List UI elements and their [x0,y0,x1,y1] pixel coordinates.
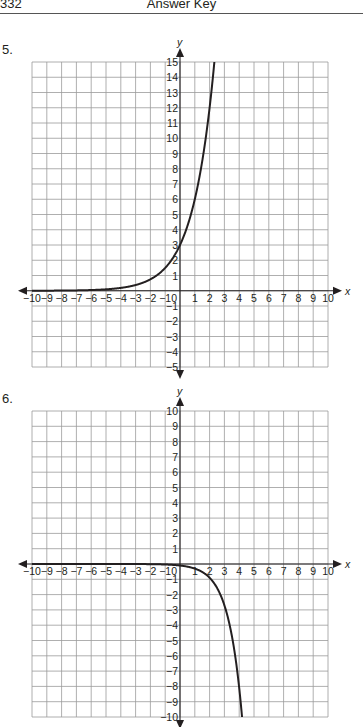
y-tick-label: 2 [172,527,178,539]
y-tick-label: 14 [166,71,178,83]
y-tick-label: −2 [166,315,178,327]
y-tick-label: 9 [172,148,178,160]
x-tick-label: −3 [130,565,142,577]
x-tick-label: 8 [295,292,301,304]
x-axis-label: x [344,285,351,297]
y-tick-label: −3 [166,604,178,616]
y-axis-label: y [176,36,183,48]
y-tick-label: 1 [172,543,178,555]
y-tick-label: 12 [166,102,178,114]
x-tick-label: −4 [115,565,127,577]
x-tick-label: −4 [115,292,127,304]
x-tick-label: 4 [236,292,242,304]
x-tick-label: 3 [221,565,227,577]
y-tick-label: −7 [166,665,178,677]
x-tick-label: −6 [85,565,97,577]
x-tick-label: −7 [70,565,82,577]
y-tick-label: 5 [172,209,178,221]
y-tick-label: 7 [172,178,178,190]
x-axis-right-arrow-icon [333,560,342,568]
x-tick-label: 6 [266,565,272,577]
y-tick-label: 10 [166,132,178,144]
y-tick-label: 6 [172,466,178,478]
x-tick-label: −10 [23,565,41,577]
x-tick-label: 1 [192,565,198,577]
x-axis-label: x [344,558,351,570]
y-tick-label: −9 [166,696,178,708]
y-tick-label: −6 [166,650,178,662]
x-tick-label: −3 [130,292,142,304]
x-tick-label: 5 [251,565,257,577]
x-tick-label: 6 [266,292,272,304]
y-tick-label: 1 [172,270,178,282]
x-tick-label: −8 [56,292,68,304]
x-tick-label: −8 [56,565,68,577]
exponential-curve [32,62,214,291]
y-tick-label: −1 [166,573,178,585]
y-tick-label: 4 [172,497,178,509]
y-tick-label: 8 [172,436,178,448]
y-tick-label: −4 [166,619,178,631]
x-axis-right-arrow-icon [333,287,342,295]
y-tick-label: −2 [166,589,178,601]
x-tick-label: −10 [23,292,41,304]
x-tick-label: −7 [70,292,82,304]
y-tick-label: −4 [166,346,178,358]
y-tick-label: 7 [172,451,178,463]
x-tick-label: 1 [192,292,198,304]
x-tick-label: 7 [281,292,287,304]
x-tick-label: −9 [41,565,53,577]
y-tick-label: 6 [172,193,178,205]
x-tick-label: 10 [322,565,334,577]
x-tick-label: 7 [281,565,287,577]
y-axis-label: y [176,385,183,397]
y-tick-label: −5 [166,361,178,373]
x-tick-label: −9 [41,292,53,304]
axes [22,52,338,375]
x-tick-label: 10 [322,292,334,304]
y-tick-label: 10 [166,405,178,417]
y-tick-label: 8 [172,163,178,175]
x-tick-label: 2 [207,292,213,304]
x-tick-label: −6 [85,292,97,304]
y-tick-label: 9 [172,420,178,432]
y-tick-label: 15 [166,56,178,68]
y-tick-label: −5 [166,635,178,647]
x-tick-label: 4 [236,565,242,577]
y-tick-label: 13 [166,87,178,99]
y-tick-label: −8 [166,680,178,692]
graph-6: xy−10−9−8−7−6−5−4−3−2−1012345678910−10−9… [18,385,351,727]
x-tick-label: −5 [100,292,112,304]
x-tick-label: −2 [144,565,156,577]
x-tick-label: 5 [251,292,257,304]
graph-5: xy−10−9−8−7−6−5−4−3−2−1012345678910−5−4−… [18,36,351,379]
x-tick-label: 9 [310,565,316,577]
y-tick-label: −3 [166,331,178,343]
x-tick-label: 3 [221,292,227,304]
x-tick-label: 8 [295,565,301,577]
y-tick-label: −10 [160,711,178,723]
y-tick-label: 3 [172,512,178,524]
x-tick-label: 9 [310,292,316,304]
y-tick-label: 11 [167,117,178,129]
x-tick-label: −5 [100,565,112,577]
y-tick-label: −1 [166,300,178,312]
graphs: xy−10−9−8−7−6−5−4−3−2−1012345678910−5−4−… [0,0,363,727]
y-tick-label: 4 [172,224,178,236]
x-tick-label: −2 [144,292,156,304]
y-tick-label: 5 [172,482,178,494]
